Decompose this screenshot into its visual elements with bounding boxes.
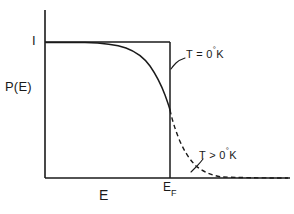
fermi-curve-dashed-segment [170,110,288,178]
leader-line-above-zero-kelvin [191,159,203,172]
x-axis-label: E [99,188,109,202]
fermi-dirac-figure: P(E) I E EF T = 0°K T > 0°K [0,0,294,214]
fermi-energy-subscript: F [171,188,177,198]
annotation-above-zero-kelvin-unit: K [229,149,237,161]
annotation-zero-kelvin: T = 0°K [186,47,224,60]
degree-icon: ° [226,146,230,155]
annotation-zero-kelvin-unit: K [216,48,224,60]
y-tick-label-one: I [32,34,36,47]
annotation-above-zero-kelvin: T > 0°K [199,148,237,161]
fermi-curve-solid-segment [46,42,170,110]
leader-line-zero-kelvin [171,58,185,69]
x-tick-label-fermi-energy: EF [163,181,177,196]
annotation-zero-kelvin-text: T = 0 [186,48,213,60]
annotation-above-zero-kelvin-text: T > 0 [199,149,226,161]
degree-icon: ° [213,45,217,54]
plot-canvas [0,0,294,214]
y-axis-label: P(E) [5,80,32,93]
fermi-energy-symbol: E [163,180,171,194]
